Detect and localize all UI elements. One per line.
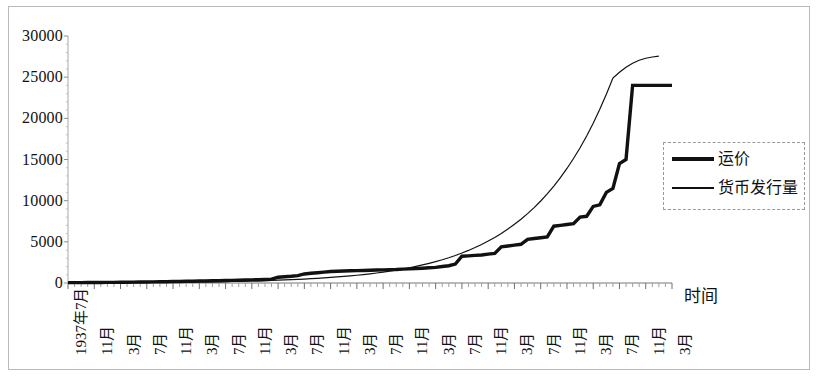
- x-axis-tick-label: 11月: [179, 326, 194, 355]
- x-axis-tick-label: 7月: [468, 333, 483, 356]
- x-axis-tick-label: 3月: [599, 333, 614, 356]
- x-axis-tick-label: 7月: [547, 333, 562, 356]
- x-axis-tick-label: 11月: [573, 326, 588, 355]
- x-axis-tick-label: 7月: [625, 333, 640, 356]
- x-axis-tick-label: 7月: [153, 333, 168, 356]
- x-axis-tick-label: 3月: [442, 333, 457, 356]
- legend-swatch-thick-icon: [672, 157, 714, 161]
- x-axis-title: 时间: [684, 288, 718, 305]
- x-axis-tick-label: 3月: [363, 333, 378, 356]
- chart-legend: 运价 货币发行量: [663, 142, 805, 210]
- x-axis-tick-label: 3月: [284, 333, 299, 356]
- legend-label-yunjia: 运价: [718, 151, 750, 167]
- x-axis-tick-label: 3月: [205, 333, 220, 356]
- x-axis-tick-label: 3月: [678, 333, 693, 356]
- x-axis-tick-label: 11月: [415, 326, 430, 355]
- x-axis-tick-label: 7月: [310, 333, 325, 356]
- legend-item-currency-issuance: 货币发行量: [672, 180, 798, 196]
- x-axis-tick-label: 11月: [652, 326, 667, 355]
- legend-swatch-thin-icon: [672, 187, 714, 189]
- x-axis-tick-label: 11月: [494, 326, 509, 355]
- legend-item-yunjia: 运价: [672, 151, 750, 167]
- x-axis-tick-label: 3月: [520, 333, 535, 356]
- chart-figure: 050001000015000200002500030000 1937年7月11…: [0, 0, 817, 378]
- x-axis-tick-label: 11月: [100, 326, 115, 355]
- x-axis-tick-label: 11月: [337, 326, 352, 355]
- x-axis-tick-label: 7月: [232, 333, 247, 356]
- legend-label-currency-issuance: 货币发行量: [718, 180, 798, 196]
- x-axis-tick-label: 7月: [389, 333, 404, 356]
- x-axis-tick-label: 1937年7月: [74, 288, 89, 356]
- x-axis-tick-label: 11月: [258, 326, 273, 355]
- x-axis-tick-label: 3月: [127, 333, 142, 356]
